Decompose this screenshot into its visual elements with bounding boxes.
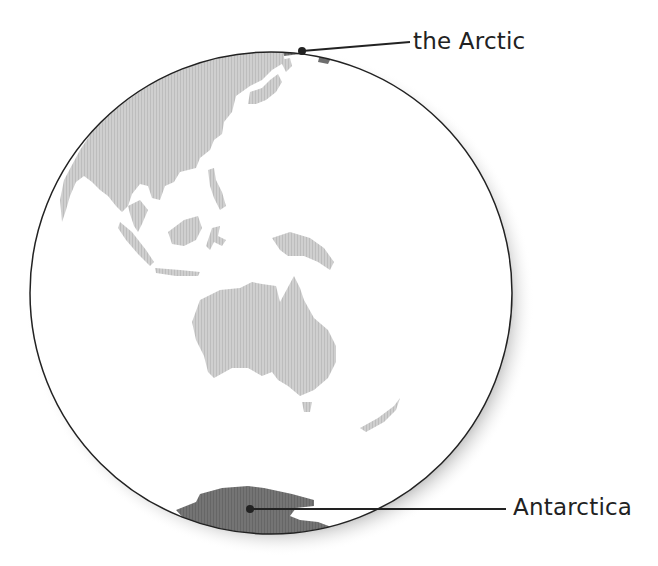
arctic-marker-dot (298, 47, 306, 55)
antarctica-marker-dot (246, 505, 254, 513)
arctic-label: the Arctic (413, 28, 525, 54)
antarctica-label: Antarctica (513, 494, 632, 520)
arctic-leader-line (302, 42, 410, 51)
globe-diagram (0, 0, 658, 566)
